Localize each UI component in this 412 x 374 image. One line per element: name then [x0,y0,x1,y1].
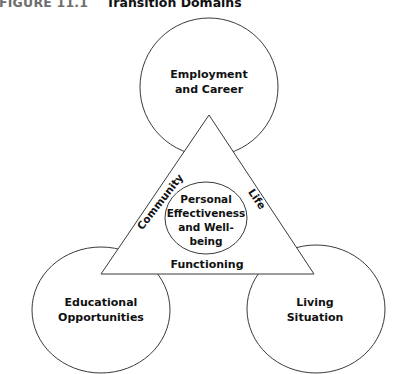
center-circle-label-line4: being [189,235,222,247]
left-circle-label-line1: Educational [65,296,138,309]
left-circle-label-line2: Opportunities [58,311,144,324]
top-circle-label-line2: and Career [175,83,244,96]
triangle-bottom-edge-label: Functioning [170,258,243,271]
transition-domains-diagram: Employment and Career Educational Opport… [0,0,412,374]
right-circle-label-line1: Living [296,296,333,309]
top-circle-label-line1: Employment [170,68,247,81]
center-circle-label-line1: Personal [180,193,232,205]
center-circle-label-line3: and Well- [178,221,234,233]
right-circle-label-line2: Situation [287,311,344,324]
center-circle-label-line2: Effectiveness [167,207,246,219]
